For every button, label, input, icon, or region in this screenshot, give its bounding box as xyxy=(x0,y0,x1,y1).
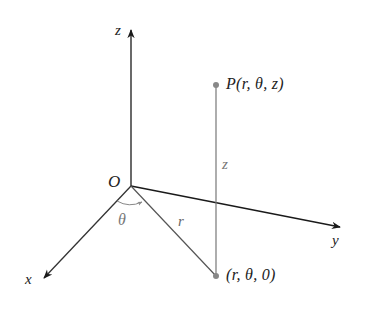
point-P-label: P(r, θ, z) xyxy=(226,75,284,93)
x-axis xyxy=(44,186,131,278)
height-label: z xyxy=(222,156,228,173)
radius-line xyxy=(131,186,216,276)
point-P-marker xyxy=(213,82,219,88)
x-axis-label: x xyxy=(25,271,32,288)
point-projection-label: (r, θ, 0) xyxy=(226,266,276,284)
z-axis-label: z xyxy=(115,22,121,39)
angle-label: θ xyxy=(118,211,126,229)
angle-arc xyxy=(117,201,142,205)
y-axis xyxy=(131,186,340,227)
y-axis-label: y xyxy=(332,232,339,249)
point-projection-marker xyxy=(213,273,219,279)
diagram-canvas xyxy=(0,0,373,309)
origin-label: O xyxy=(108,172,120,192)
cylindrical-coordinates-diagram: z y x O P(r, θ, z) (r, θ, 0) z r θ xyxy=(0,0,373,309)
radius-label: r xyxy=(178,213,184,230)
